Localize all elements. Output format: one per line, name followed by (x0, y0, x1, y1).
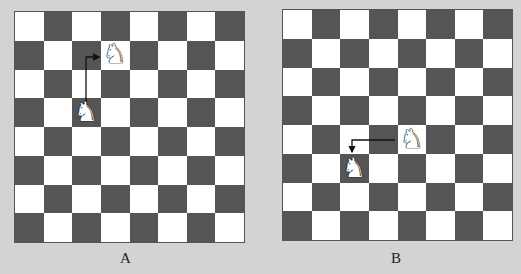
board-square (426, 10, 455, 39)
board-square (398, 68, 427, 97)
board-square (44, 185, 73, 214)
board-square (215, 156, 244, 185)
board-square (15, 127, 44, 156)
board-square (158, 12, 187, 41)
board-square (215, 213, 244, 242)
board-square (101, 98, 130, 127)
board-square (215, 185, 244, 214)
board-square (158, 127, 187, 156)
board-square (455, 68, 484, 97)
board-square (369, 125, 398, 154)
board-square (455, 10, 484, 39)
board-square (369, 154, 398, 183)
board-square (312, 183, 341, 212)
board-square (72, 156, 101, 185)
board-square (312, 154, 341, 183)
board-square (215, 98, 244, 127)
board-square (398, 154, 427, 183)
board-square (187, 185, 216, 214)
board-square (215, 12, 244, 41)
chessboard-a (14, 11, 245, 243)
board-square (44, 12, 73, 41)
knight-icon: ♞ (72, 98, 100, 126)
board-square (44, 213, 73, 242)
board-square (369, 10, 398, 39)
board-square (158, 213, 187, 242)
board-square (455, 154, 484, 183)
board-square (483, 211, 512, 240)
board-square (283, 96, 312, 125)
board-square (283, 183, 312, 212)
board-square (130, 156, 159, 185)
board-square (187, 127, 216, 156)
board-square (15, 185, 44, 214)
board-square (72, 12, 101, 41)
board-square (426, 154, 455, 183)
board-square (455, 96, 484, 125)
board-square (312, 68, 341, 97)
board-square (101, 213, 130, 242)
board-square (483, 125, 512, 154)
board-square (215, 127, 244, 156)
board-square (130, 70, 159, 99)
board-square (101, 185, 130, 214)
board-square (101, 156, 130, 185)
board-square (398, 211, 427, 240)
board-square (369, 39, 398, 68)
board-square (101, 70, 130, 99)
board-square (340, 39, 369, 68)
board-square (215, 70, 244, 99)
board-square (72, 41, 101, 70)
board-square (455, 39, 484, 68)
board-square (158, 98, 187, 127)
board-label-b: B (391, 250, 401, 267)
board-square (15, 213, 44, 242)
knight-icon: ♞ (101, 40, 129, 68)
board-square (312, 39, 341, 68)
board-square (369, 211, 398, 240)
board-square (158, 185, 187, 214)
board-square (130, 127, 159, 156)
board-square (130, 98, 159, 127)
board-square (15, 156, 44, 185)
board-square (44, 70, 73, 99)
board-square (426, 96, 455, 125)
board-square (158, 70, 187, 99)
board-square (72, 127, 101, 156)
board-square (72, 70, 101, 99)
board-square (312, 211, 341, 240)
board-square (101, 12, 130, 41)
board-square (44, 127, 73, 156)
board-square (426, 125, 455, 154)
board-square (340, 96, 369, 125)
board-square (283, 68, 312, 97)
board-square (283, 125, 312, 154)
board-square (130, 12, 159, 41)
board-square (312, 96, 341, 125)
board-square (369, 96, 398, 125)
board-square (15, 41, 44, 70)
board-square (398, 10, 427, 39)
board-square (187, 70, 216, 99)
board-square (187, 156, 216, 185)
board-square (426, 39, 455, 68)
board-square (15, 98, 44, 127)
board-square (398, 183, 427, 212)
board-label-a: A (120, 250, 131, 267)
board-square (283, 10, 312, 39)
board-square (483, 68, 512, 97)
board-square (283, 39, 312, 68)
board-square (15, 12, 44, 41)
board-square (158, 156, 187, 185)
board-square (44, 98, 73, 127)
board-square (340, 10, 369, 39)
knight-icon: ♞ (340, 154, 368, 182)
board-square (455, 211, 484, 240)
board-square (483, 96, 512, 125)
board-square (340, 183, 369, 212)
board-square (44, 156, 73, 185)
board-square (398, 39, 427, 68)
board-square (340, 125, 369, 154)
knight-icon: ♞ (398, 125, 426, 153)
board-square (483, 154, 512, 183)
